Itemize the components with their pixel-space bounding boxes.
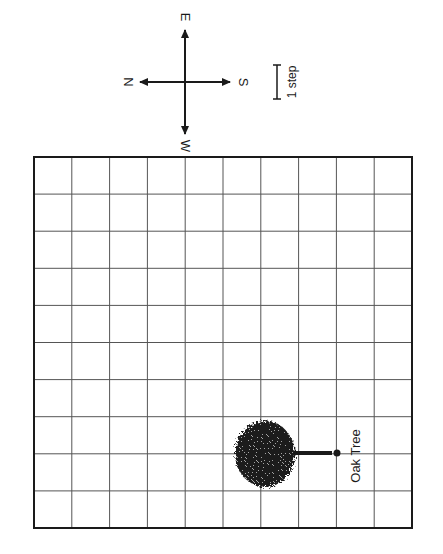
scale-bar: 1 step xyxy=(273,65,299,99)
compass-rose: N S E W xyxy=(121,13,251,153)
scale-label: 1 step xyxy=(285,65,299,98)
tree-icon xyxy=(235,421,295,487)
tree-location-dot xyxy=(334,450,341,457)
compass-west-label: W xyxy=(178,140,193,153)
compass-south-label: S xyxy=(236,78,251,87)
compass-east-label: E xyxy=(178,13,193,22)
compass-north-label: N xyxy=(121,77,136,86)
map-diagram: N S E W 1 step Oak Tree xyxy=(0,0,443,554)
tree-label: Oak Tree xyxy=(348,429,363,482)
